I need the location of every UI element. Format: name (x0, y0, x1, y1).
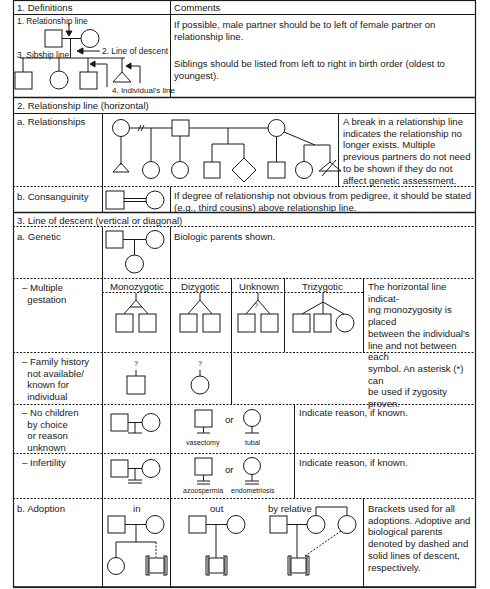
adoption-diagram (0, 0, 490, 589)
comment-adoption: Brackets used for all adoptions. Adoptiv… (368, 503, 476, 573)
